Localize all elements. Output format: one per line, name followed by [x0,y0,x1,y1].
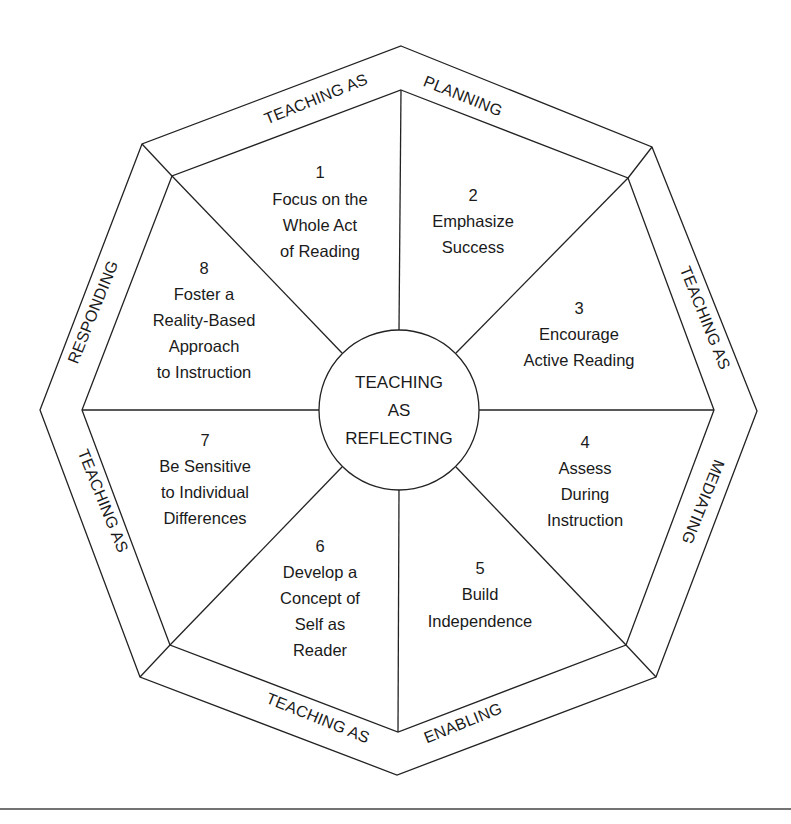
segment-line: Differences [163,509,246,527]
teaching-octagon-diagram: TEACHING AS REFLECTING 1 Focus on the Wh… [0,0,791,824]
center-line-2: AS [388,401,411,420]
segment-7: 7 Be Sensitive to Individual Differences [159,431,251,527]
segment-number: 7 [200,431,209,449]
segment-4: 4 Assess During Instruction [547,433,623,529]
segment-line: Reality-Based [153,311,256,329]
segment-line: Self as [295,615,345,633]
segment-number: 2 [468,186,477,204]
segment-line: Develop a [283,563,358,581]
band-left-upper-label: RESPONDING [64,258,121,366]
band-top-right-label: PLANNING [421,72,505,119]
segment-line: Be Sensitive [159,457,251,475]
segment-3: 3 Encourage Active Reading [524,299,635,369]
center-label: TEACHING AS REFLECTING [345,373,453,448]
segment-line: to Instruction [157,363,251,381]
segment-line: Assess [558,459,611,477]
segment-line: of Reading [280,242,360,260]
segment-2: 2 Emphasize Success [432,186,514,256]
center-line-3: REFLECTING [345,429,453,448]
segment-line: Emphasize [432,212,514,230]
segment-8: 8 Foster a Reality-Based Approach to Ins… [153,259,256,381]
segment-line: Whole Act [283,216,358,234]
segment-line: Encourage [539,325,619,343]
segment-6: 6 Develop a Concept of Self as Reader [280,537,360,659]
segment-line: Active Reading [524,351,635,369]
segment-line: Build [462,585,499,603]
band-left-lower-label: TEACHING AS [75,447,132,555]
segment-line: Instruction [547,511,623,529]
segment-line: to Individual [161,483,249,501]
segment-1: 1 Focus on the Whole Act of Reading [272,163,367,260]
segment-line: Success [442,238,504,256]
segment-line: Foster a [174,285,235,303]
band-top-left-label: TEACHING AS [262,70,370,127]
center-line-1: TEACHING [355,373,443,392]
segment-line: Independence [428,612,533,630]
segment-number: 6 [315,537,324,555]
segment-line: Reader [293,641,348,659]
segment-5: 5 Build Independence [428,559,533,630]
segment-number: 4 [580,433,589,451]
segment-number: 3 [574,299,583,317]
segment-line: Concept of [280,589,360,607]
segment-line: Approach [169,337,240,355]
band-right-lower-label: MEDIATING [678,457,727,546]
segment-number: 5 [475,559,484,577]
segment-number: 8 [199,259,208,277]
segment-line: During [561,485,610,503]
band-bottom-left-label: TEACHING AS [264,689,372,746]
segment-number: 1 [315,163,324,181]
segment-line: Focus on the [272,190,367,208]
